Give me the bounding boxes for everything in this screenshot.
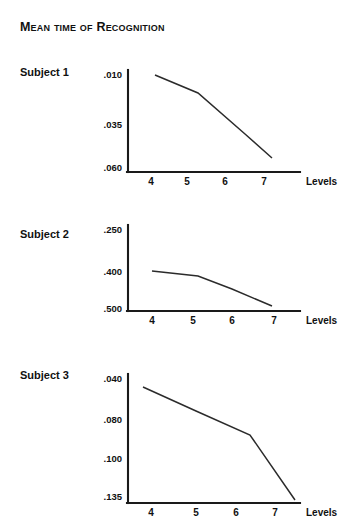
data-series-line-3 — [143, 387, 295, 500]
x-tick-label: 5 — [186, 507, 206, 518]
x-tick-label: 6 — [226, 507, 246, 518]
x-axis-title-3: Levels — [306, 507, 337, 518]
x-tick-label: 4 — [141, 507, 161, 518]
x-tick-label: 7 — [265, 507, 285, 518]
figure-container: Mean time of Recognition Subject 1 .010 … — [0, 0, 353, 524]
plot-svg-subject-3 — [0, 0, 353, 524]
